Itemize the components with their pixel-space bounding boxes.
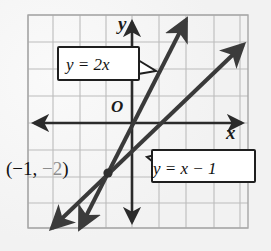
- x-axis-label: x: [226, 123, 236, 142]
- callout-label-y-equals-2x: y = 2x: [66, 56, 110, 73]
- coordinate-plane-figure: y x O y = 2x y = x − 1 (−1, −2): [0, 0, 271, 251]
- intersection-point-label: (−1, −2): [6, 159, 69, 178]
- callout-pointer-icon: [138, 60, 156, 74]
- point-label-y-value: −2: [42, 158, 62, 179]
- point-label-prefix: (−1,: [6, 158, 42, 179]
- origin-label: O: [111, 98, 123, 115]
- y-axis-label: y: [118, 14, 126, 33]
- point-label-suffix: ): [62, 158, 68, 179]
- intersection-point-dot: [103, 168, 112, 177]
- callout-label-y-equals-x-minus-1: y = x − 1: [153, 160, 217, 177]
